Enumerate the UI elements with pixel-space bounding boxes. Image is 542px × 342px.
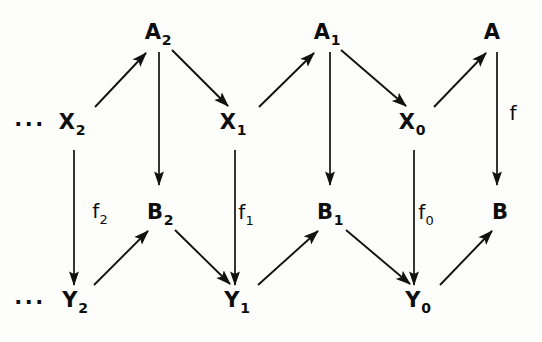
arrow-X0-to-A	[434, 53, 486, 107]
node-subscript: 1	[240, 300, 250, 316]
node-label-x1: X1	[220, 112, 246, 133]
node-label-a: A	[484, 22, 500, 43]
morphism-label-f: f	[509, 103, 516, 123]
arrow-group	[74, 50, 497, 285]
arrow-Y1-to-B1	[258, 231, 318, 285]
morphism-subscript: 2	[99, 212, 107, 227]
node-subscript: 2	[76, 122, 86, 138]
node-base: Y	[405, 288, 420, 312]
morphism-subscript: 0	[425, 213, 433, 228]
node-base: B	[492, 200, 508, 224]
arrow-Y0-to-B	[440, 231, 492, 285]
node-label-y2: Y2	[62, 290, 87, 311]
node-base: X	[220, 110, 236, 134]
node-label-x2: X2	[59, 112, 85, 133]
node-subscript: 1	[334, 212, 344, 228]
arrow-X1-to-A1	[259, 53, 314, 107]
node-subscript: 2	[162, 32, 172, 48]
node-base: Y	[62, 288, 77, 312]
morphism-base: f	[509, 101, 516, 125]
node-base: A	[314, 20, 330, 44]
morphism-base: f	[92, 199, 99, 223]
arrow-A2-to-X1	[172, 50, 228, 106]
morphism-base: f	[238, 200, 245, 224]
node-subscript: 0	[421, 300, 431, 316]
arrow-B2-to-Y1	[175, 230, 230, 284]
morphism-subscript: 1	[245, 213, 253, 228]
node-base: A	[145, 20, 161, 44]
node-subscript: 2	[78, 300, 88, 316]
node-base: X	[399, 110, 415, 134]
node-base: X	[59, 110, 75, 134]
node-base: B	[147, 200, 163, 224]
arrow-B1-to-Y0	[346, 230, 410, 284]
node-label-x0: X0	[399, 112, 425, 133]
node-base: A	[484, 20, 500, 44]
morphism-label-f0: f0	[418, 202, 433, 222]
arrow-Y2-to-B2	[94, 231, 148, 285]
ellipsis-x-row: ···	[14, 114, 45, 135]
node-label-b2: B2	[147, 202, 173, 223]
morphism-label-f2: f2	[92, 201, 107, 221]
node-label-b1: B1	[317, 202, 343, 223]
node-label-y0: Y0	[405, 290, 430, 311]
node-subscript: 2	[164, 212, 174, 228]
node-label-a1: A1	[314, 22, 340, 43]
node-subscript: 0	[416, 122, 426, 138]
node-subscript: 1	[237, 122, 247, 138]
morphism-label-f1: f1	[238, 202, 253, 222]
ellipsis-y-row: ···	[14, 292, 45, 313]
commutative-diagram: A2A1AX2X1X0B2B1BY2Y1Y0 f2f1f0f ······	[0, 0, 542, 342]
arrow-X2-to-A2	[95, 53, 146, 107]
node-label-a2: A2	[145, 22, 171, 43]
node-label-b: B	[492, 202, 508, 223]
node-base: B	[317, 200, 333, 224]
node-subscript: 1	[331, 32, 341, 48]
node-label-y1: Y1	[224, 290, 249, 311]
morphism-base: f	[418, 200, 425, 224]
arrow-A1-to-X0	[341, 50, 406, 106]
node-base: Y	[224, 288, 239, 312]
